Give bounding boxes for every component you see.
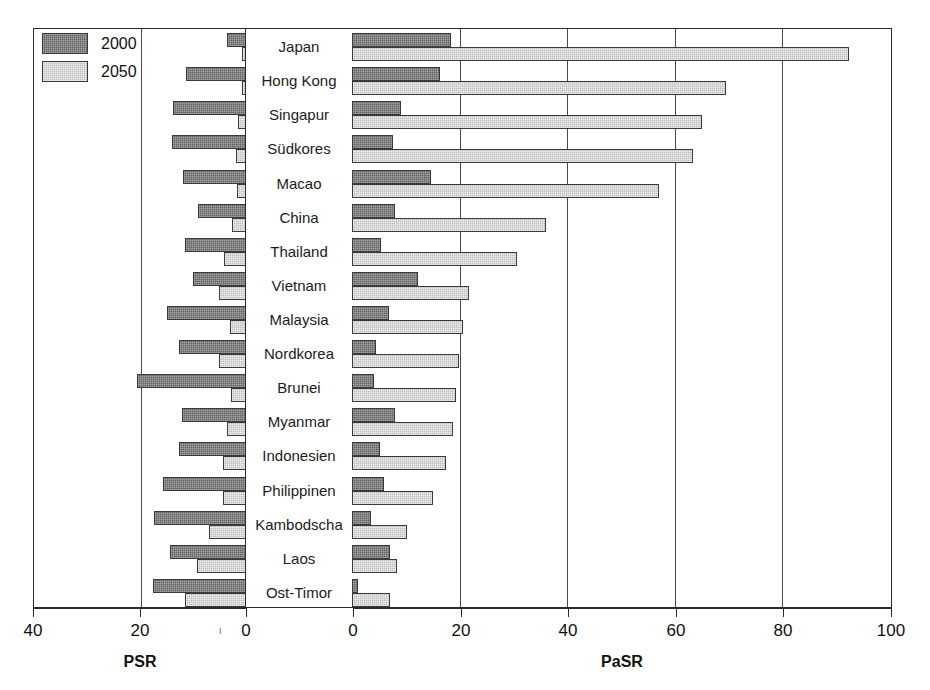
pasr-bar-2000 [352,170,431,184]
psr-bar-2000 [154,511,245,525]
pasr-bar-2050 [352,491,433,505]
pasr-bar-2000 [352,477,384,491]
pasr-bar-2050 [352,456,446,470]
legend-item: 2000 [42,33,137,54]
pasr-bar-2050 [352,115,702,129]
psr-axis-title: PSR [60,653,220,671]
axis-tick [676,609,677,617]
category-label: Südkores [246,141,352,156]
axis-tick-label: 20 [431,621,491,641]
psr-bar-2050 [242,47,245,61]
psr-bar-2000 [179,442,245,456]
stray-artifact-mark: ι [219,624,221,636]
pasr-bar-2050 [352,184,659,198]
category-label: Japan [246,39,352,54]
pasr-bar-2000 [352,306,389,320]
axis-tick-label: 40 [3,621,63,641]
psr-bar-2050 [236,149,245,163]
pasr-bar-2000 [352,545,390,559]
category-label: Nordkorea [246,346,352,361]
legend-label: 2000 [101,35,137,53]
axis-tick-label: 60 [646,621,706,641]
psr-bar-2000 [137,374,245,388]
pasr-bar-2050 [352,525,407,539]
axis-tick-label: 20 [110,621,170,641]
psr-bar-2050 [227,422,245,436]
psr-bar-2000 [182,408,245,422]
category-label: Hong Kong [246,73,352,88]
pasr-bar-2050 [352,81,726,95]
category-label-column: JapanHong KongSingapurSüdkoresMacaoChina… [246,28,352,608]
gridline [782,29,783,607]
pasr-bar-2050 [352,422,453,436]
pasr-bar-2050 [352,354,459,368]
axis-tick-label: 80 [753,621,813,641]
pasr-plot-area [352,29,891,607]
psr-bar-2050 [197,559,245,573]
pasr-bar-2000 [352,579,358,593]
pasr-bar-2000 [352,272,418,286]
category-label: Laos [246,551,352,566]
pasr-bar-2050 [352,252,517,266]
psr-bar-2050 [185,593,245,607]
category-label: Kambodscha [246,517,352,532]
pasr-bar-2050 [352,388,456,402]
category-label: Myanmar [246,414,352,429]
category-label: China [246,210,352,225]
psr-bar-2000 [163,477,245,491]
pasr-bar-2050 [352,47,849,61]
axis-tick [891,609,892,617]
axis-tick [461,609,462,617]
category-label: Thailand [246,244,352,259]
pasr-bar-2050 [352,593,390,607]
category-label: Indonesien [246,448,352,463]
axis-tick [246,609,247,617]
axis-tick-label: 0 [216,621,276,641]
pasr-bar-2050 [352,218,546,232]
gridline [141,29,142,607]
pasr-bar-2000 [352,408,395,422]
psr-bar-2000 [167,306,245,320]
legend-item: 2050 [42,61,137,82]
psr-bar-2000 [183,170,245,184]
psr-bar-2000 [153,579,245,593]
pasr-bar-2000 [352,374,374,388]
psr-bar-2050 [209,525,245,539]
psr-bar-2000 [173,101,245,115]
pasr-bar-2000 [352,340,376,354]
psr-bar-2000 [193,272,245,286]
psr-plot-area [34,29,245,607]
chart-figure: JapanHong KongSingapurSüdkoresMacaoChina… [0,0,930,690]
category-label: Ost-Timor [246,585,352,600]
legend-swatch-2000 [42,33,88,54]
axis-tick-label: 100 [861,621,921,641]
category-label: Philippinen [246,483,352,498]
pasr-bar-2000 [352,204,395,218]
psr-bar-2000 [179,340,245,354]
legend-label: 2050 [101,63,137,81]
psr-bar-2050 [230,320,245,334]
axis-tick [33,609,34,617]
psr-bar-2000 [198,204,245,218]
pasr-bar-2000 [352,511,371,525]
axis-tick [783,609,784,617]
psr-bar-2000 [172,135,245,149]
category-label: Macao [246,176,352,191]
psr-bar-2050 [232,218,245,232]
pasr-bar-2050 [352,320,463,334]
psr-bar-2000 [186,67,245,81]
pasr-bar-2050 [352,559,397,573]
axis-tick [353,609,354,617]
psr-bar-2050 [223,456,245,470]
axis-tick-label: 40 [538,621,598,641]
pasr-bar-2000 [352,238,381,252]
legend: 20002050 [42,33,137,89]
psr-bar-2050 [219,354,245,368]
category-label-area: JapanHong KongSingapurSüdkoresMacaoChina… [246,29,352,607]
pasr-bar-2050 [352,286,469,300]
pasr-bar-2050 [352,149,693,163]
psr-bar-2050 [238,115,245,129]
pasr-plot-panel [352,28,892,608]
pasr-axis-title: PaSR [542,653,702,671]
category-label: Singapur [246,107,352,122]
